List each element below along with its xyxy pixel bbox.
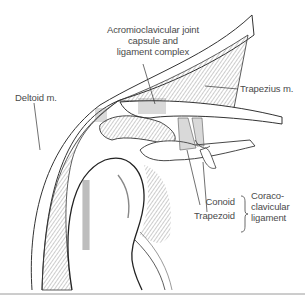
label-ac-joint: Acromioclavicular joint capsule and liga… (88, 24, 218, 57)
ac-joint-capsule (138, 98, 166, 114)
label-ac-joint-line3: ligament complex (88, 46, 218, 57)
label-trapezoid: Trapezoid (180, 210, 235, 221)
label-ac-joint-line2: capsule and (88, 35, 218, 46)
label-coracoclavicular: Coraco- clavicular ligament (251, 190, 290, 223)
acromion (100, 116, 176, 145)
label-trapezius: Trapezius m. (240, 83, 293, 94)
label-ac-joint-line1: Acromioclavicular joint (88, 24, 218, 35)
label-cc-line1: Coraco- (251, 190, 290, 201)
label-deltoid: Deltoid m. (15, 92, 57, 103)
label-conoid: Conoid (180, 196, 235, 207)
coracoclavicular-brace (241, 196, 248, 232)
label-cc-line2: clavicular (251, 201, 290, 212)
humeral-head (68, 158, 144, 290)
label-cc-line3: ligament (251, 212, 290, 223)
scapula-shading (140, 165, 171, 243)
leader-deltoid (34, 103, 40, 150)
